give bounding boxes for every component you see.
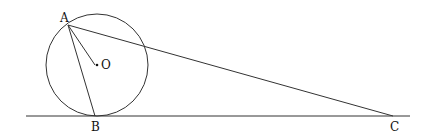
geometry-diagram: A O B C [0,0,433,136]
label-a: A [59,11,69,25]
label-o: O [101,58,111,72]
label-c: C [390,120,399,134]
segment-ac [68,25,393,116]
label-b: B [91,120,100,134]
center-point-o [96,64,99,67]
segment-ab [68,25,95,116]
